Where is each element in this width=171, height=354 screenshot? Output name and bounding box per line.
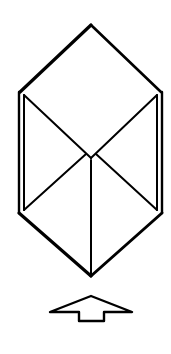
upper-right-to-center-edge xyxy=(91,95,157,158)
upper-left-to-center-edge xyxy=(24,95,91,158)
diagram-canvas xyxy=(0,0,171,354)
crystal-shape xyxy=(19,25,162,276)
crystal-diagram xyxy=(0,0,171,354)
bottom-left-edge xyxy=(19,213,91,276)
center-to-lower-left-edge xyxy=(24,154,86,210)
top-right-edge xyxy=(91,25,161,92)
up-arrow-icon xyxy=(50,296,132,321)
bottom-right-edge xyxy=(91,213,162,276)
center-to-lower-right-edge xyxy=(96,154,157,210)
top-left-edge xyxy=(20,25,91,92)
arrow-outline xyxy=(50,296,132,321)
